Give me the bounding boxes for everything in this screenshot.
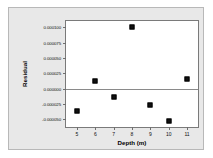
x-axis-tick-label: 10 xyxy=(166,131,172,137)
y-axis-tick xyxy=(63,104,66,105)
x-axis-tick xyxy=(132,127,133,130)
x-axis-tick-label: 11 xyxy=(184,131,189,137)
figure-panel: Residual 0.0001000.0000750.0000500.00002… xyxy=(8,7,204,150)
data-point-marker xyxy=(130,25,135,30)
y-axis-tick xyxy=(63,89,66,90)
y-axis-title: Residual xyxy=(21,61,28,87)
y-axis-tick xyxy=(63,119,66,120)
y-axis-tick-label: 0.000075 xyxy=(43,40,61,45)
plot-area: 0.0001000.0000750.0000500.0000250.000000… xyxy=(65,20,199,128)
x-axis-tick xyxy=(187,127,188,130)
y-axis-tick-label: 0.000050 xyxy=(43,55,61,60)
data-point-marker xyxy=(185,77,190,82)
y-axis-tick-label: -0.000050 xyxy=(42,117,61,122)
x-axis-title: Depth (m) xyxy=(65,139,199,146)
data-point-marker xyxy=(148,102,153,107)
zero-reference-line xyxy=(66,89,198,90)
data-point-marker xyxy=(75,109,80,114)
y-axis-tick xyxy=(63,43,66,44)
x-axis-tick-label: 9 xyxy=(149,131,152,137)
x-axis-tick-label: 7 xyxy=(112,131,115,137)
y-axis-tick-label: 0.000100 xyxy=(43,25,61,30)
y-axis-tick-label: 0.000025 xyxy=(43,71,61,76)
data-point-marker xyxy=(93,78,98,83)
y-axis-tick xyxy=(63,58,66,59)
y-axis-tick xyxy=(63,73,66,74)
x-axis-tick xyxy=(169,127,170,130)
x-axis-tick xyxy=(114,127,115,130)
y-axis-tick-label: -0.000025 xyxy=(42,101,61,106)
x-axis-tick xyxy=(150,127,151,130)
x-axis-tick xyxy=(95,127,96,130)
data-point-marker xyxy=(111,94,116,99)
x-axis-tick-label: 5 xyxy=(76,131,79,137)
data-point-marker xyxy=(166,119,171,124)
y-axis-tick xyxy=(63,27,66,28)
x-axis-tick xyxy=(77,127,78,130)
plot-inner: 0.0001000.0000750.0000500.0000250.000000… xyxy=(66,21,198,127)
y-axis-tick-label: 0.000000 xyxy=(43,86,61,91)
x-axis-tick-label: 6 xyxy=(94,131,97,137)
x-axis-tick-label: 8 xyxy=(131,131,134,137)
